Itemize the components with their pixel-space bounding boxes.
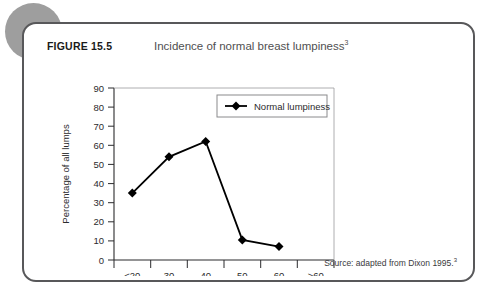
figure-card: FIGURE 15.5 Incidence of normal breast l… [22,22,475,282]
y-tick-label: 80 [93,102,104,113]
y-tick-label: 50 [93,159,104,170]
y-tick-label: 10 [93,235,104,246]
y-axis-ticks [108,88,114,260]
chart-legend[interactable]: Normal lumpiness [217,95,330,117]
data-point-marker [238,235,247,244]
x-tick-label: 30 [164,270,175,276]
figure-title-text: Incidence of normal breast lumpiness [154,40,345,52]
figure-page: FIGURE 15.5 Incidence of normal breast l… [0,0,498,303]
y-tick-label: 30 [93,197,104,208]
y-tick-label: 90 [93,83,104,94]
chart-svg: 90 80 70 60 50 40 30 20 10 0 Percentage … [42,58,457,276]
y-tick-label: 40 [93,178,104,189]
source-note-text: Source: adapted from Dixon 1995. [324,258,453,268]
data-point-marker [201,137,210,146]
x-tick-label: 50 [237,270,248,276]
y-tick-label: 0 [99,255,104,266]
x-tick-label: 60 [274,270,285,276]
series-line-normal-lumpiness [132,142,279,247]
figure-title: Incidence of normal breast lumpiness3 [154,39,348,52]
y-tick-label: 70 [93,121,104,132]
x-tick-label: <20 [124,270,140,276]
figure-title-superscript: 3 [345,39,349,46]
legend-label: Normal lumpiness [254,101,330,112]
series-markers [128,137,284,251]
y-axis-labels: 90 80 70 60 50 40 30 20 10 0 [93,83,104,266]
y-axis-title: Percentage of all lumps [60,124,71,224]
x-tick-label: >60 [308,270,324,276]
x-tick-label: 40 [200,270,211,276]
source-note: Source: adapted from Dixon 1995.3 [324,257,457,268]
data-point-marker [275,242,284,251]
source-note-superscript: 3 [454,257,457,263]
y-tick-label: 60 [93,140,104,151]
x-axis-labels: <20 30 40 50 60 >60 [124,270,324,276]
x-axis-ticks [114,260,334,268]
figure-label: FIGURE 15.5 [47,40,112,52]
line-chart: 90 80 70 60 50 40 30 20 10 0 Percentage … [42,58,457,276]
y-tick-label: 20 [93,216,104,227]
